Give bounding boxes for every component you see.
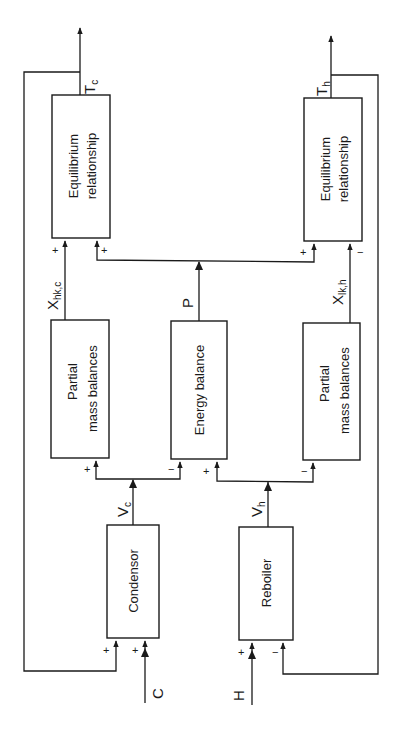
label-xlkh: Xlk,h <box>329 279 348 305</box>
sign-eq-h-left: + <box>300 246 306 258</box>
block-partial-mass-h: Partial mass balances <box>303 323 360 460</box>
block-reboiler: Reboiler <box>239 527 293 640</box>
partial-mass-c-label-1: Partial <box>65 363 80 400</box>
label-th: Th <box>313 81 332 96</box>
sign-energy-right: + <box>203 465 209 477</box>
condensor-label: Condensor <box>126 549 141 613</box>
equilibrium-c-label-1: Equilibrium <box>66 134 81 198</box>
equilibrium-h-label-1: Equilibrium <box>318 137 333 201</box>
sign-cond-c: + <box>132 644 138 656</box>
label-vh: Vh <box>248 501 267 517</box>
sign-energy-left: − <box>168 463 174 475</box>
sign-eq-h-right: − <box>357 246 363 258</box>
block-equilibrium-h: Equilibrium relationship <box>304 98 362 241</box>
sign-eq-c-left: + <box>52 244 58 256</box>
block-condensor: Condensor <box>107 525 159 638</box>
signal-p-path <box>97 241 314 321</box>
label-p: P <box>179 298 196 308</box>
equilibrium-c-label-2: relationship <box>84 133 99 200</box>
sign-eq-c-right: + <box>101 244 107 256</box>
sign-reb-h: + <box>238 646 244 658</box>
partial-mass-h-label-1: Partial <box>317 365 332 402</box>
partial-mass-c-label-2: mass balances <box>85 345 100 432</box>
equilibrium-h-label-2: relationship <box>336 136 351 203</box>
sign-reb-fb: − <box>272 646 278 658</box>
sign-cond-fb: + <box>103 644 109 656</box>
label-h: H <box>230 690 247 701</box>
label-tc: Tc <box>81 80 100 94</box>
signal-h-input <box>248 643 256 705</box>
sign-pm-c-in: + <box>84 463 90 475</box>
partial-mass-h-label-2: mass balances <box>337 347 352 434</box>
reboiler-label: Reboiler <box>259 558 274 607</box>
sign-pm-h-in: − <box>301 465 307 477</box>
energy-balance-label: Energy balance <box>192 345 207 435</box>
block-equilibrium-c: Equilibrium relationship <box>52 95 110 238</box>
block-partial-mass-c: Partial mass balances <box>51 320 109 458</box>
signal-vh-path <box>217 462 313 527</box>
block-diagram: Equilibrium relationship Equilibrium rel… <box>0 0 402 729</box>
label-xhkc: Xhk,c <box>44 282 63 310</box>
signal-c-input <box>141 641 149 703</box>
label-c: C <box>149 688 166 699</box>
label-vc: Vc <box>114 502 133 517</box>
block-energy-balance: Energy balance <box>171 321 227 459</box>
